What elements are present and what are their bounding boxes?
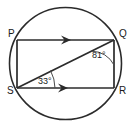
vertex-label-p: P xyxy=(8,28,15,39)
vertex-label-r: R xyxy=(119,85,126,96)
geometry-canvas: P Q R S 81° 33° xyxy=(0,0,135,129)
angle-label-81: 81° xyxy=(92,50,106,60)
geometry-figure: P Q R S 81° 33° xyxy=(0,0,135,129)
angle-label-33: 33° xyxy=(38,76,52,86)
vertex-label-s: S xyxy=(7,85,14,96)
vertex-label-q: Q xyxy=(119,28,127,39)
segment-sq-diagonal xyxy=(17,40,114,88)
